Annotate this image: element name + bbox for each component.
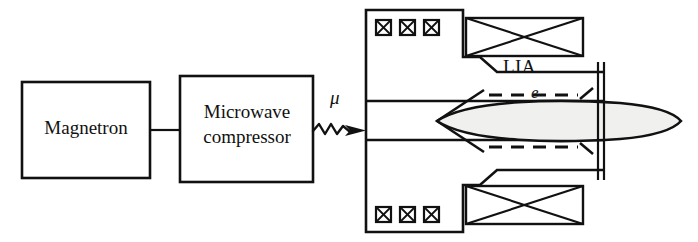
bottom-small-coil-group <box>376 207 439 222</box>
large-coil-bottom <box>466 186 583 224</box>
lia-label: LIA <box>503 57 536 76</box>
large-coil-top <box>466 18 583 56</box>
compressor-label-line2: compressor <box>203 126 291 147</box>
electron-beam-label: e <box>531 84 539 101</box>
microwave-squiggle-icon <box>313 124 349 134</box>
schematic-diagram: Magnetron Microwavecompressor μ LIA e <box>0 0 698 242</box>
electron-beam-upper-tick <box>580 88 593 99</box>
electron-beam-lower-tick <box>580 143 593 154</box>
compressor-label-line1: Microwave <box>204 101 291 122</box>
plasma-lens <box>437 101 681 141</box>
top-small-coil-group <box>376 20 439 35</box>
microwave-compressor-label: Microwavecompressor <box>181 99 313 149</box>
magnetron-label: Magnetron <box>22 118 150 137</box>
mu-symbol-label: μ <box>330 88 340 107</box>
